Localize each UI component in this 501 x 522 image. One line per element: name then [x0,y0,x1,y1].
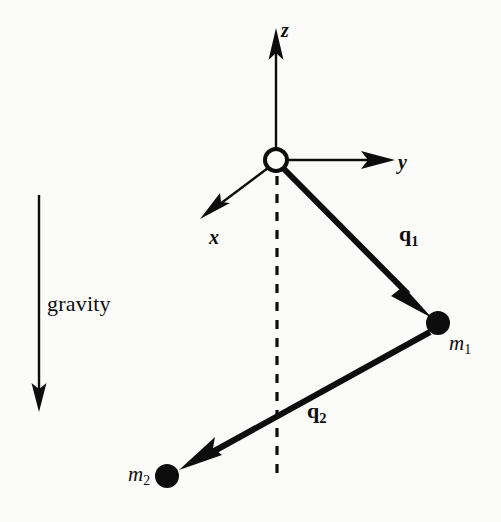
z-axis-label: z [281,20,289,40]
mass-m2-dot [155,464,179,488]
q1-subscript: 1 [411,233,418,249]
x-axis [200,168,268,219]
q1-symbol: q [399,221,411,246]
q1-vector-label: q1 [399,223,419,248]
x-axis-label: x [209,227,219,247]
diagram-graphics [0,0,501,522]
q2-vector [179,332,430,470]
m1-subscript: 1 [464,342,471,357]
figure-canvas: z y x q1 q2 m1 m2 gravity [0,0,501,522]
mass-m1-label: m1 [449,333,471,357]
m2-symbol: m [128,462,143,486]
m1-symbol: m [449,331,464,355]
y-axis [288,151,395,169]
gravity-arrow [32,195,47,412]
mass-m2-label: m2 [128,464,150,488]
origin-pivot [265,149,287,171]
m2-subscript: 2 [143,473,150,488]
mass-m1-dot [426,311,450,335]
q2-subscript: 2 [319,410,326,426]
q2-symbol: q [307,398,319,423]
gravity-label: gravity [47,293,111,315]
q2-vector-label: q2 [307,400,327,425]
y-axis-label: y [398,152,407,172]
z-axis [269,28,284,149]
